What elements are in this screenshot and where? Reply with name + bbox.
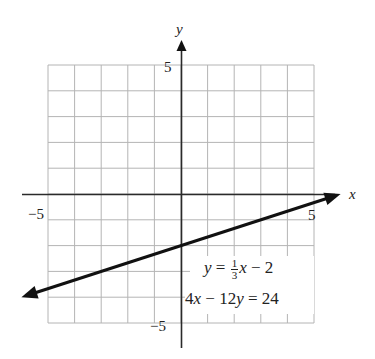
fraction: 13	[231, 258, 239, 281]
x-axis-label: x	[348, 186, 356, 202]
equation-slope-intercept: y = 13x − 2	[204, 258, 273, 281]
eq2-y: y	[236, 289, 244, 308]
x-max-label: 5	[308, 207, 316, 223]
y-axis-arrow-icon	[177, 40, 187, 51]
x-min-label: −5	[28, 206, 44, 222]
y-max-label: 5	[164, 59, 172, 75]
y-axis-label: y	[174, 21, 183, 37]
eq2-mid: − 12	[201, 289, 236, 308]
arrow-right-icon	[323, 193, 340, 205]
y-min-label: −5	[150, 318, 166, 334]
eq2-coef: 4	[185, 289, 194, 308]
eq2-rest: = 24	[244, 289, 279, 308]
eq1-rest: − 2	[247, 258, 274, 277]
arrow-left-icon	[21, 286, 38, 298]
fraction-denominator: 3	[231, 270, 239, 281]
eq1-equals: =	[212, 258, 230, 277]
equation-standard: 4x − 12y = 24	[185, 289, 279, 309]
eq1-var: x	[239, 258, 247, 277]
eq1-lhs: y	[204, 258, 212, 277]
eq2-x: x	[194, 289, 202, 308]
